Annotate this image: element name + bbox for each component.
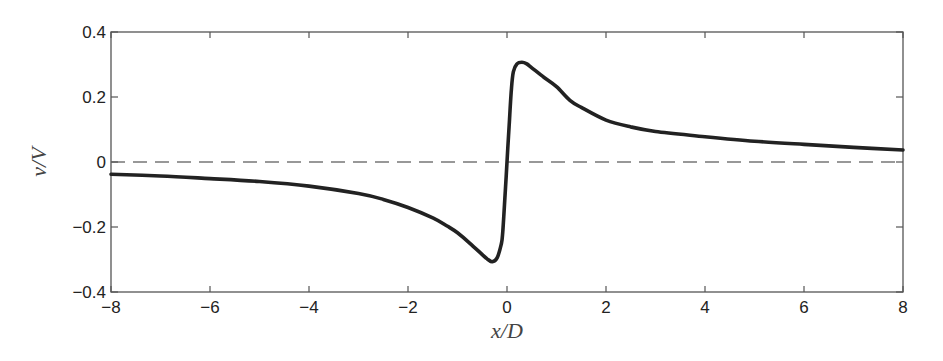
x-tick-label: 4	[700, 298, 709, 317]
chart: −8−6−4−202468 −0.4−0.200.20.4 x/D v/V	[0, 0, 943, 361]
plot-area	[111, 32, 903, 292]
y-tick-label: −0.4	[72, 283, 106, 302]
x-tick-label: 6	[799, 298, 808, 317]
y-tick-label: −0.2	[72, 218, 106, 237]
y-tick-label: 0.2	[82, 88, 106, 107]
x-axis-label: x/D	[490, 318, 523, 343]
y-axis-label: v/V	[26, 145, 51, 177]
x-tick-label: −2	[398, 298, 417, 317]
x-tick-label: 2	[601, 298, 610, 317]
y-tick-label: 0.4	[82, 23, 106, 42]
y-tick-label: 0	[97, 153, 106, 172]
x-tick-label: −4	[299, 298, 318, 317]
x-tick-label: 0	[502, 298, 511, 317]
x-tick-label: −6	[200, 298, 219, 317]
x-tick-label: 8	[898, 298, 907, 317]
